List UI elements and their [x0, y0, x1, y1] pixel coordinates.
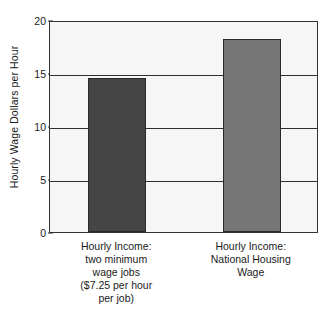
x-axis-label-line: wage jobs [49, 266, 184, 279]
y-tick-label: 0 [40, 227, 46, 239]
y-tick-label: 15 [34, 68, 46, 80]
x-axis-label-line: per job) [49, 292, 184, 305]
y-tick-label: 10 [34, 121, 46, 133]
plot-inner [50, 22, 317, 232]
x-axis-label-line: National Housing [184, 253, 319, 266]
x-axis-label-line: Hourly Income: [49, 240, 184, 253]
x-axis-label: Hourly Income:two minimumwage jobs($7.25… [49, 240, 184, 305]
x-axis-label-line: Wage [184, 266, 319, 279]
x-axis-label-line: two minimum [49, 253, 184, 266]
x-axis-label-line: ($7.25 per hour [49, 279, 184, 292]
y-axis-tick-labels: 05101520 [26, 0, 48, 309]
x-axis-category-labels: Hourly Income:two minimumwage jobs($7.25… [49, 236, 318, 309]
bar [223, 39, 281, 232]
bar-chart: Hourly Wage Dollars per Hour 05101520 Ho… [0, 0, 335, 309]
y-axis-title-text: Hourly Wage Dollars per Hour [8, 46, 20, 188]
bar [88, 78, 146, 232]
x-axis-label-line: Hourly Income: [184, 240, 319, 253]
x-axis-label: Hourly Income:National HousingWage [184, 240, 319, 279]
y-tick-label: 5 [40, 174, 46, 186]
y-axis-title: Hourly Wage Dollars per Hour [0, 0, 28, 234]
plot-area [49, 21, 318, 233]
y-tick-label: 20 [34, 15, 46, 27]
